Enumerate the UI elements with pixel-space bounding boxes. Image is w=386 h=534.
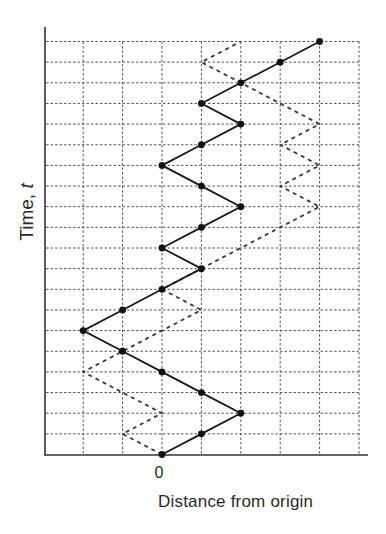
walk-point-marker [159,162,166,169]
y-axis-label-text: Time, [16,189,37,241]
walk-point-marker [159,369,166,376]
walk-point-marker [237,203,244,210]
walk-point-marker [198,265,205,272]
walk-point-marker [237,410,244,417]
walk-point-marker [316,38,323,45]
walk-point-marker [198,389,205,396]
walk-point-marker [159,245,166,252]
walk-point-marker [159,451,166,458]
walk-point-marker [119,307,126,314]
walk-point-marker [198,100,205,107]
y-axis-label: Time, t [16,183,38,240]
random-walk-chart [0,0,386,534]
walk-point-marker [80,327,87,334]
x-axis-label: Distance from origin [158,492,313,512]
walk-point-marker [198,183,205,190]
walk-point-marker [159,286,166,293]
x-tick-label-zero: 0 [155,464,164,482]
walk-point-marker [119,348,126,355]
walk-point-marker [198,141,205,148]
y-axis-label-variable: t [16,183,37,188]
walk-point-marker [277,59,284,66]
walk-point-marker [198,430,205,437]
walk-point-marker [237,79,244,86]
walk-point-marker [237,121,244,128]
walk-point-marker [198,224,205,231]
